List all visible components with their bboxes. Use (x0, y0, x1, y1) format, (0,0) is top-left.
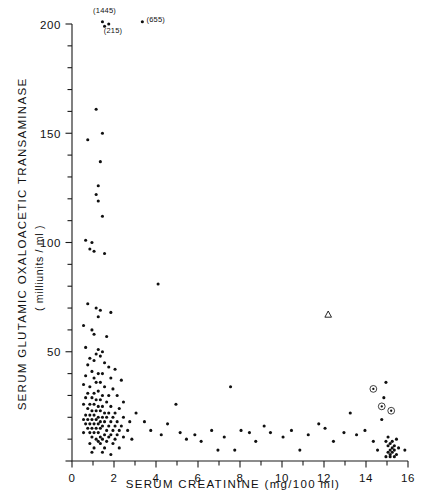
scatter-plot-figure: 501001502000246810121416 (1445)(215)(655… (0, 0, 424, 499)
data-point-dot (111, 387, 114, 390)
data-point-dot (109, 405, 112, 408)
data-point-dot (93, 431, 96, 434)
data-point-dot (160, 433, 163, 436)
data-point-dot (95, 352, 98, 355)
data-point-dot (324, 427, 327, 430)
data-point-dot (269, 431, 272, 434)
data-point-dot (82, 324, 85, 327)
data-point-dot (149, 429, 152, 432)
data-point-dot (107, 411, 110, 414)
data-point-dot (97, 184, 100, 187)
data-point-dot (393, 449, 396, 452)
data-point-dot (229, 385, 232, 388)
x-axis-tick-label: 16 (401, 472, 415, 484)
data-point-dot (93, 403, 96, 406)
data-point-dot (114, 424, 117, 427)
data-point-dot (90, 370, 93, 373)
data-point-dot (103, 252, 106, 255)
data-point-dot (99, 398, 102, 401)
data-point-dot (157, 282, 160, 285)
data-point-dot (101, 394, 104, 397)
data-point-dot (86, 363, 89, 366)
data-point-dot (101, 372, 104, 375)
data-point-dot (395, 438, 398, 441)
data-points-layer (82, 20, 406, 458)
data-point-dot (86, 392, 89, 395)
data-point-dot (263, 424, 266, 427)
data-point-dot (114, 411, 117, 414)
data-point-circled-dot-core (372, 388, 374, 390)
data-point-circled-dot-core (390, 410, 392, 412)
data-point-dot (101, 416, 104, 419)
data-point-dot (393, 455, 396, 458)
data-point-dot (126, 429, 129, 432)
data-point-dot (349, 411, 352, 414)
data-point-dot (193, 433, 196, 436)
data-point-dot (84, 414, 87, 417)
data-point-dot (376, 449, 379, 452)
data-point-dot (86, 302, 89, 305)
data-point-dot (99, 442, 102, 445)
data-point-dot (380, 418, 383, 421)
data-point-dot (107, 435, 110, 438)
data-point-dot (105, 335, 108, 338)
data-point-dot (93, 446, 96, 449)
data-point-dot (97, 422, 100, 425)
data-point-dot (143, 420, 146, 423)
data-point-dot (95, 193, 98, 196)
data-point-dot (107, 394, 110, 397)
data-point-dot (97, 315, 100, 318)
data-point-dot (107, 365, 110, 368)
data-point-dot (240, 429, 243, 432)
data-point-dot (88, 431, 91, 434)
data-point-dot (111, 429, 114, 432)
data-point-dot (99, 409, 102, 412)
data-point-dot (372, 440, 375, 443)
data-point-dot (93, 414, 96, 417)
data-point-dot (122, 400, 125, 403)
data-point-dot (210, 429, 213, 432)
series-open-triangle-case (325, 311, 332, 317)
data-point-dot (101, 405, 104, 408)
data-point-dot (97, 431, 100, 434)
data-point-triangle (325, 311, 332, 317)
data-point-dot (99, 160, 102, 163)
data-point-dot (82, 383, 85, 386)
data-point-dot (101, 350, 104, 353)
data-point-dot (95, 409, 98, 412)
plot-canvas: 501001502000246810121416 (1445)(215)(655… (0, 0, 424, 499)
data-point-dot (109, 311, 112, 314)
data-point-dot (88, 442, 91, 445)
data-point-dot (282, 435, 285, 438)
data-point-dot (101, 20, 104, 23)
data-point-dot (216, 449, 219, 452)
data-point-dot (387, 435, 390, 438)
y-axis-tick-label: 200 (40, 19, 61, 31)
data-point-dot (109, 376, 112, 379)
data-point-dot (114, 438, 117, 441)
data-point-dot (141, 20, 144, 23)
data-point-dot (86, 418, 89, 421)
data-point-dot (84, 422, 87, 425)
data-point-dot (118, 429, 121, 432)
data-point-dot (97, 405, 100, 408)
data-point-dot (90, 435, 93, 438)
data-point-circled-dot-core (381, 405, 383, 407)
data-point-dot (114, 368, 117, 371)
y-axis-title: SERUM GLUTAMIC OXALOACETIC TRANSAMINASE (16, 78, 28, 411)
data-point-dot (86, 138, 89, 141)
axes-layer (66, 24, 409, 468)
data-point-dot (84, 396, 87, 399)
data-point-dot (332, 440, 335, 443)
data-point-dot (101, 438, 104, 441)
data-point-dot (174, 403, 177, 406)
data-point-dot (86, 407, 89, 410)
data-point-dot (93, 422, 96, 425)
data-point-dot (103, 446, 106, 449)
data-point-dot (248, 431, 251, 434)
y-axis-units-label: ( milliunits / ml ) (33, 225, 45, 311)
tick-label-layer: 501001502000246810121416 (40, 19, 415, 485)
data-point-dot (111, 442, 114, 445)
data-point-dot (88, 403, 91, 406)
data-point-dot (105, 400, 108, 403)
